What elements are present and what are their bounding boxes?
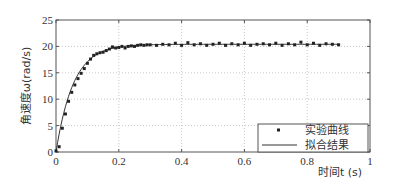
- x-tick-label: 0: [53, 155, 59, 167]
- legend-label-experiment: 实验曲线: [305, 123, 349, 137]
- x-tick-label: 0.4: [175, 155, 189, 167]
- chart: 00.20.40.60.81 0510152025 实验曲线 拟合结果 时间t …: [0, 0, 393, 186]
- y-tick-label: 10: [42, 93, 54, 105]
- legend-dot-icon: [277, 129, 280, 132]
- x-axis-label: 时间t (s): [318, 166, 362, 179]
- x-tick-label: 1: [367, 155, 373, 167]
- x-tick-label: 0.6: [238, 155, 252, 167]
- y-tick-label: 20: [42, 40, 54, 52]
- x-tick-label: 0.8: [300, 155, 314, 167]
- y-tick-label: 15: [42, 67, 54, 79]
- y-tick-label: 25: [42, 14, 54, 26]
- legend-label-fit: 拟合结果: [305, 138, 349, 152]
- y-tick-label: 0: [48, 146, 54, 158]
- legend: 实验曲线 拟合结果: [258, 123, 368, 152]
- y-tick-label: 5: [48, 120, 54, 132]
- y-axis-label: 角速度ω(rad/s): [19, 47, 33, 125]
- x-tick-label: 0.2: [112, 155, 126, 167]
